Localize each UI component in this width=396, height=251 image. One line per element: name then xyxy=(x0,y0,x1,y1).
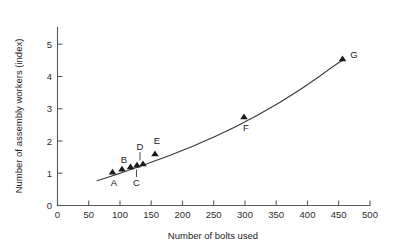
x-tick-label-0: 0 xyxy=(55,209,60,220)
x-tick-label-300: 300 xyxy=(237,209,253,220)
y-tick-label-3: 3 xyxy=(47,103,52,114)
data-point-marker-a[interactable] xyxy=(109,169,117,175)
data-point-marker-g[interactable] xyxy=(339,56,347,62)
x-tick-label-100: 100 xyxy=(112,209,128,220)
y-tick-labels: 0 1 2 3 4 5 xyxy=(47,39,52,211)
x-tick-marks xyxy=(58,201,371,206)
x-tick-label-150: 150 xyxy=(143,209,159,220)
data-point-marker-d[interactable] xyxy=(133,162,141,168)
data-point-marker-b[interactable] xyxy=(118,166,126,172)
data-point-marker-e[interactable] xyxy=(151,151,159,157)
x-tick-label-250: 250 xyxy=(206,209,222,220)
x-tick-label-450: 450 xyxy=(331,209,347,220)
data-point-marker-c[interactable] xyxy=(127,164,135,170)
data-point-marker-d2[interactable] xyxy=(139,161,147,167)
data-point-label-c: C xyxy=(133,177,140,188)
x-tick-label-400: 400 xyxy=(300,209,316,220)
x-tick-label-350: 350 xyxy=(268,209,284,220)
y-tick-label-2: 2 xyxy=(47,136,52,147)
y-tick-marks xyxy=(58,44,63,205)
data-point-markers xyxy=(109,56,347,175)
data-point-label-e: E xyxy=(154,135,160,146)
data-point-marker-f[interactable] xyxy=(240,114,248,120)
y-tick-label-5: 5 xyxy=(47,39,52,50)
y-tick-label-0: 0 xyxy=(47,200,52,211)
x-axis-title: Number of bolts used xyxy=(168,230,258,241)
data-point-labels: A B C D E F G xyxy=(111,49,358,188)
y-tick-label-4: 4 xyxy=(47,71,52,82)
x-tick-label-500: 500 xyxy=(362,209,378,220)
x-tick-label-50: 50 xyxy=(83,209,94,220)
y-tick-label-1: 1 xyxy=(47,168,52,179)
data-point-label-f: F xyxy=(243,122,249,133)
y-axis-title: Number of assembly workers (index) xyxy=(13,39,24,194)
x-tick-label-200: 200 xyxy=(175,209,191,220)
fitted-trend-curve xyxy=(97,60,343,181)
x-tick-labels: 0 50 100 150 200 250 300 350 400 450 500 xyxy=(55,209,378,220)
data-point-label-b: B xyxy=(121,154,127,165)
scatter-plot: 0 50 100 150 200 250 300 350 400 450 500… xyxy=(0,0,396,251)
data-point-label-g: G xyxy=(350,49,357,60)
data-point-label-d: D xyxy=(137,141,144,152)
data-point-label-a: A xyxy=(111,177,118,188)
chart-figure: 0 50 100 150 200 250 300 350 400 450 500… xyxy=(0,0,396,251)
